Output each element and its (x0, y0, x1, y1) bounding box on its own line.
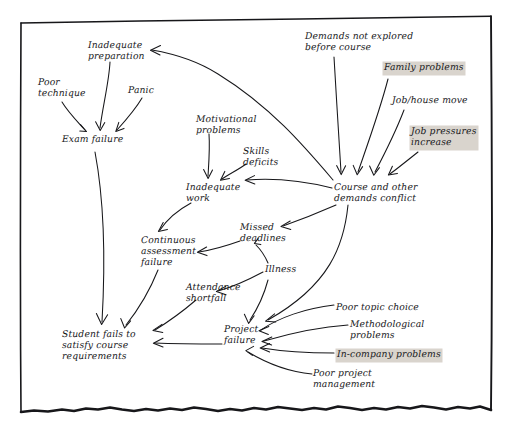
edge-illness-to-project-failure (244, 280, 268, 323)
node-poor-project-management[interactable]: Poor project management (313, 369, 375, 391)
node-poor-topic-choice[interactable]: Poor topic choice (336, 303, 419, 314)
diagram-canvas: Inadequate preparation Poor technique Pa… (0, 0, 506, 436)
edge-exam-failure-to-student-fails (95, 152, 108, 325)
node-continuous-assessment-failure[interactable]: Continuous assessment failure (141, 236, 196, 269)
edge-inadequate-work-to-continuous-assessment (158, 203, 191, 231)
node-inadequate-work[interactable]: Inadequate work (186, 183, 240, 205)
frame-bottom-torn-edge (21, 406, 491, 412)
edge-poor-technique-to-exam-failure (62, 102, 87, 132)
edge-continuous-assessment-to-student-fails (121, 270, 158, 328)
node-panic[interactable]: Panic (128, 86, 154, 97)
edge-motivational-problems-to-inadequate-work (204, 134, 213, 179)
edge-missed-deadlines-to-continuous-assessment (197, 241, 240, 256)
edge-course-demands-to-missed-deadlines (281, 205, 336, 229)
edge-inadequate-preparation-to-exam-failure (96, 62, 110, 131)
node-motivational-problems[interactable]: Motivational problems (196, 115, 257, 137)
node-job-house-move[interactable]: Job/house move (392, 96, 468, 107)
node-poor-technique[interactable]: Poor technique (38, 78, 86, 100)
node-attendance-shortfall[interactable]: Attendance shortfall (186, 283, 241, 305)
node-skills-deficits[interactable]: Skills deficits (243, 147, 278, 169)
edge-poor-topic-choice-to-project-failure (259, 305, 334, 334)
node-family-problems[interactable]: Family problems (384, 63, 464, 74)
edge-attendance-shortfall-to-student-fails (153, 300, 196, 332)
node-in-company-problems[interactable]: In-company problems (337, 350, 441, 361)
node-job-pressures-increase[interactable]: Job pressures increase (411, 127, 477, 149)
edge-demands-not-explored-to-course-demands (334, 57, 346, 175)
edge-job-house-move-to-course-demands (370, 110, 404, 175)
edge-project-failure-to-student-fails (153, 338, 222, 347)
node-project-failure[interactable]: Project failure (224, 325, 258, 347)
edge-job-pressures-to-course-demands (388, 152, 418, 175)
node-exam-failure[interactable]: Exam failure (62, 135, 123, 146)
edge-methodological-problems-to-project-failure (262, 325, 348, 345)
node-demands-not-explored[interactable]: Demands not explored before course (305, 32, 413, 54)
frame-right-edge (491, 16, 492, 410)
edge-family-problems-to-course-demands (353, 79, 388, 175)
edge-panic-to-exam-failure (116, 98, 142, 132)
edge-course-demands-to-inadequate-preparation (151, 46, 334, 181)
node-illness[interactable]: Illness (265, 265, 296, 276)
node-student-fails[interactable]: Student fails to satisfy course requirem… (62, 330, 136, 363)
node-inadequate-preparation[interactable]: Inadequate preparation (88, 41, 145, 63)
node-course-demands-conflict[interactable]: Course and other demands conflict (334, 183, 418, 205)
node-methodological-problems[interactable]: Methodological problems (350, 320, 424, 342)
node-missed-deadlines[interactable]: Missed deadlines (240, 223, 286, 245)
frame-top-edge (21, 16, 491, 23)
frame-left-edge (20, 23, 21, 412)
edge-course-demands-to-inadequate-work (245, 176, 332, 188)
